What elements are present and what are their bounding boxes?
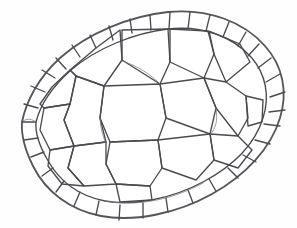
scute-fill-group: [22, 11, 284, 218]
turtle-shell-drawing: [0, 0, 297, 228]
carapace-body-fill: [22, 11, 284, 218]
carapace-diagram: [0, 0, 297, 228]
